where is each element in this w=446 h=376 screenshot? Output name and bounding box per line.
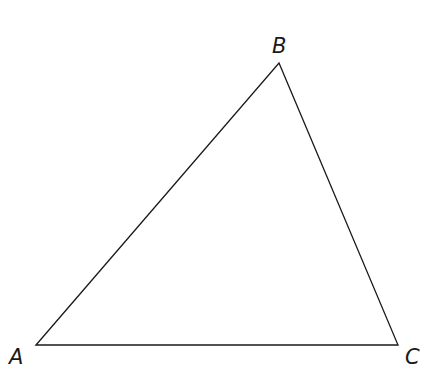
triangle-diagram: B A C — [0, 0, 446, 376]
vertex-label-c: C — [405, 345, 420, 369]
vertex-label-b: B — [272, 34, 286, 58]
vertex-label-a: A — [7, 345, 23, 369]
triangle-abc — [36, 63, 398, 345]
